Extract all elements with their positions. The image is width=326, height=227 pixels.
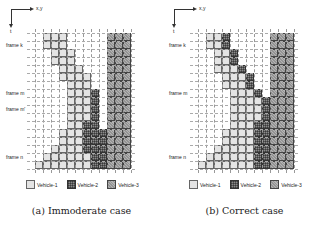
cell-v2	[262, 105, 270, 113]
cell-v1	[67, 161, 75, 169]
cell-v3	[278, 73, 286, 81]
cell-v3	[286, 65, 294, 73]
frame-label: frame n	[0, 154, 34, 160]
legend-label: Vehicle-3	[118, 182, 139, 188]
cell-v3	[123, 121, 131, 129]
vehicle-2-swatch	[67, 180, 76, 189]
cell-v3	[107, 129, 115, 137]
grid-line	[123, 29, 124, 173]
grid-line	[27, 73, 135, 74]
grid-line	[27, 145, 135, 146]
grid-line	[91, 29, 92, 173]
cell-v3	[270, 121, 278, 129]
grid-line	[27, 33, 135, 34]
cell-v1	[230, 81, 238, 89]
grid-line	[190, 145, 298, 146]
frame-label: frame m'	[0, 106, 34, 112]
vehicle-2-swatch	[230, 180, 239, 189]
cell-v3	[270, 57, 278, 65]
cell-v1	[246, 129, 254, 137]
cell-v3	[286, 89, 294, 97]
grid-line	[83, 29, 84, 173]
cell-v1	[83, 113, 91, 121]
cell-v3	[270, 129, 278, 137]
cell-v3	[107, 33, 115, 41]
cell-v1	[222, 153, 230, 161]
caption: (b) Correct case	[163, 205, 326, 216]
cell-v1	[67, 89, 75, 97]
cell-v2	[246, 81, 254, 89]
cell-v2	[83, 137, 91, 145]
cell-v3	[286, 97, 294, 105]
cell-v3	[107, 161, 115, 169]
cell-v3	[107, 65, 115, 73]
cell-v2	[91, 113, 99, 121]
grid-line	[286, 29, 287, 173]
grid-line	[107, 29, 108, 173]
grid-line	[190, 57, 298, 58]
cell-v3	[123, 161, 131, 169]
cell-v3	[115, 49, 123, 57]
cell-v1	[246, 161, 254, 169]
legend: Vehicle-1 Vehicle-2 Vehicle-3	[189, 180, 302, 189]
cell-v3	[123, 41, 131, 49]
cell-v1	[83, 73, 91, 81]
cell-v1	[230, 121, 238, 129]
cell-v1	[230, 105, 238, 113]
cell-v1	[59, 65, 67, 73]
cell-v2	[262, 153, 270, 161]
grid-line	[43, 29, 44, 173]
cell-v2	[91, 145, 99, 153]
cell-v1	[246, 145, 254, 153]
cell-v3	[107, 73, 115, 81]
grid-line	[190, 161, 298, 162]
legend-item-vehicle-3: Vehicle-3	[107, 180, 139, 189]
legend-item-vehicle-1: Vehicle-1	[26, 180, 58, 189]
cell-v2	[91, 137, 99, 145]
cell-v3	[107, 145, 115, 153]
x-axis-label: x,y	[36, 5, 42, 11]
legend-item-vehicle-2: Vehicle-2	[67, 180, 99, 189]
grid-line	[27, 105, 135, 106]
cell-v1	[75, 73, 83, 81]
arrow-right-icon	[30, 7, 34, 11]
cell-v1	[43, 41, 51, 49]
cell-v3	[278, 33, 286, 41]
cell-v1	[206, 161, 214, 169]
cell-v3	[115, 41, 123, 49]
cell-v2	[254, 153, 262, 161]
cell-v1	[230, 129, 238, 137]
cell-v1	[51, 145, 59, 153]
vehicle-3-swatch	[107, 180, 116, 189]
cell-v1	[43, 33, 51, 41]
grid-line	[222, 29, 223, 173]
cell-v1	[67, 137, 75, 145]
grid-line	[190, 73, 298, 74]
grid-line	[59, 29, 60, 173]
cell-v1	[246, 113, 254, 121]
cell-v3	[107, 97, 115, 105]
cell-v1	[222, 65, 230, 73]
grid-line	[27, 137, 135, 138]
grid-line	[27, 81, 135, 82]
cell-v1	[59, 137, 67, 145]
cell-v2	[262, 137, 270, 145]
cell-v3	[115, 57, 123, 65]
cell-v3	[123, 89, 131, 97]
cell-v1	[67, 105, 75, 113]
cell-v3	[286, 121, 294, 129]
cell-v1	[230, 153, 238, 161]
cell-v3	[286, 137, 294, 145]
cell-v3	[270, 73, 278, 81]
grid-line	[294, 29, 295, 173]
frame-label: frame n	[163, 154, 197, 160]
cell-v1	[206, 33, 214, 41]
cell-v1	[75, 97, 83, 105]
cell-v2	[262, 145, 270, 153]
cell-v2	[91, 161, 99, 169]
cell-v3	[107, 89, 115, 97]
cell-v1	[238, 81, 246, 89]
cell-v1	[67, 153, 75, 161]
cell-v1	[214, 153, 222, 161]
cell-v1	[51, 49, 59, 57]
